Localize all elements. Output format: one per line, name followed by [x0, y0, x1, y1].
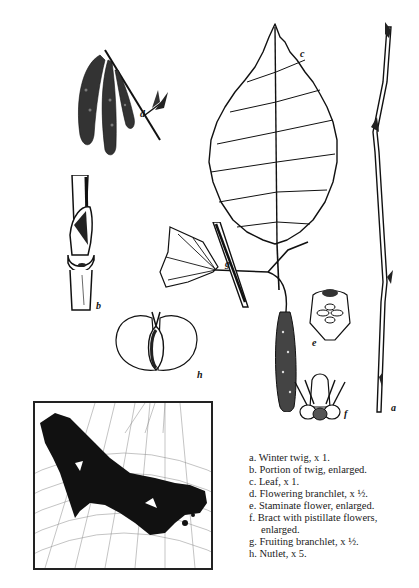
legend-item-f: f. Bract with pistillate flowers,	[249, 512, 419, 524]
legend-item-h: h. Nutlet, x 5.	[249, 548, 419, 560]
legend-item-c: c. Leaf, x 1.	[249, 476, 419, 488]
figure-label-b: b	[96, 300, 101, 311]
bract-pistillate-flowers-illustration	[290, 372, 350, 422]
legend-item-b: b. Portion of twig, enlarged.	[249, 464, 419, 476]
figure-legend: a. Winter twig, x 1. b. Portion of twig,…	[249, 452, 419, 560]
nutlet-illustration	[112, 310, 202, 380]
legend-item-f-continued: enlarged.	[249, 524, 419, 536]
legend-item-g: g. Fruiting branchlet, x ½.	[249, 536, 419, 548]
figure-label-f: f	[344, 408, 347, 419]
range-map	[33, 401, 213, 570]
legend-item-e: e. Staminate flower, enlarged.	[249, 500, 419, 512]
figure-label-a: a	[391, 402, 396, 413]
figure-label-d: d	[140, 108, 145, 119]
range-map-graphic	[35, 403, 211, 568]
winter-twig-illustration	[365, 22, 405, 417]
figure-label-h: h	[197, 369, 203, 380]
botanical-plate: d b c a	[0, 0, 419, 588]
figure-label-c: c	[300, 48, 304, 59]
figure-label-g: g	[225, 258, 230, 269]
staminate-flower-illustration	[305, 285, 355, 345]
figure-label-e: e	[312, 337, 316, 348]
twig-portion-illustration	[62, 175, 112, 315]
legend-item-d: d. Flowering branchlet, x ½.	[249, 488, 419, 500]
flowering-branchlet-illustration	[60, 30, 180, 160]
legend-item-a: a. Winter twig, x 1.	[249, 452, 419, 464]
